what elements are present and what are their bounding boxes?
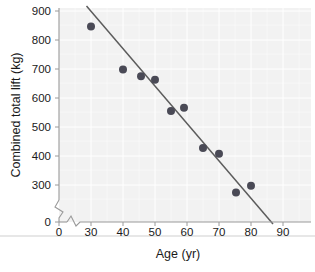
x-tick-label: 60 [181, 226, 194, 238]
data-point [119, 66, 127, 74]
data-point [180, 104, 188, 112]
data-point [151, 76, 159, 84]
data-point [87, 23, 95, 31]
data-point [137, 72, 145, 80]
y-tick-labels: 900 800 700 600 500 400 300 0 [32, 5, 51, 228]
x-axis-title: Age (yr) [156, 247, 200, 261]
data-point [199, 144, 207, 152]
data-point [215, 150, 223, 158]
y-tick-label: 600 [32, 92, 51, 104]
y-tick-label: 700 [32, 63, 51, 75]
data-point [167, 107, 175, 115]
x-tick-label: 40 [117, 226, 130, 238]
x-tick-label: 30 [85, 226, 98, 238]
y-tick-label: 900 [32, 5, 51, 17]
scatter-chart-figure: 900 800 700 600 500 400 300 0 0 30 40 50… [0, 0, 315, 272]
x-tick-label: 50 [149, 226, 162, 238]
y-tick-label: 0 [45, 216, 51, 228]
y-tick-marks [55, 11, 59, 222]
x-tick-label: 90 [277, 226, 290, 238]
x-tick-label: 70 [213, 226, 226, 238]
y-tick-label: 400 [32, 150, 51, 162]
data-point [232, 188, 240, 196]
x-tick-label: 80 [245, 226, 258, 238]
y-tick-label: 300 [32, 179, 51, 191]
data-point [247, 182, 255, 190]
y-axis-title: Combined total lift (kg) [9, 52, 23, 177]
y-tick-label: 500 [32, 121, 51, 133]
x-tick-label: 0 [56, 226, 62, 238]
y-tick-label: 800 [32, 34, 51, 46]
